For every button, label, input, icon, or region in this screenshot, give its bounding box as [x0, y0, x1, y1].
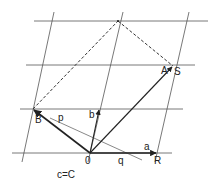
label-b: b [89, 109, 95, 120]
lattice-diagram: A S B p b 0 q a R c=C [0, 0, 219, 183]
dashed-edge-T-S [118, 21, 173, 66]
label-S: S [174, 66, 181, 77]
label-O: 0 [85, 155, 91, 166]
slanted-grid-lines [22, 12, 189, 162]
horizontal-grid-lines [12, 21, 208, 153]
grid-line-s1 [22, 12, 54, 162]
label-A: A [161, 65, 168, 76]
vertex-top [117, 20, 119, 22]
vectors [34, 67, 172, 153]
caption: c=C [57, 169, 75, 180]
label-p: p [58, 112, 64, 123]
label-a: a [144, 141, 150, 152]
label-q: q [118, 155, 124, 166]
label-R: R [154, 155, 161, 166]
grid-line-s3 [155, 12, 189, 162]
label-B: B [35, 114, 42, 125]
